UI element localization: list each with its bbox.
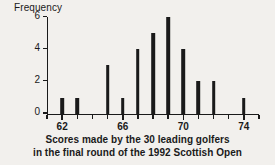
x-tick-68 [152,115,153,119]
caption-line-2: in the final round of the 1992 Scottish … [0,146,275,159]
bar-74 [242,98,246,114]
x-tick-62 [61,115,63,120]
bar-65 [106,65,110,113]
y-tick-2: 2 [43,80,47,81]
x-tick-label-62: 62 [57,121,68,132]
bar-68 [151,33,155,114]
bar-63 [75,98,79,114]
y-tick-4: 4 [43,48,47,49]
bar-70 [181,49,185,113]
bar-72 [212,81,216,113]
y-tick-6: 6 [43,16,47,17]
bar-69 [166,17,170,114]
bar-67 [136,49,140,113]
y-tick-label-0: 0 [34,106,40,117]
x-tick-70 [183,115,185,120]
histogram-figure: Frequency 0246 62667074 Scores made by t… [0,0,275,165]
x-tick-72 [213,115,214,119]
x-tick-75 [258,115,259,119]
y-tick-0: 0 [43,112,47,113]
x-tick-73 [228,115,229,119]
x-tick-69 [167,115,168,119]
y-tick-label-4: 4 [34,42,40,53]
x-tick-63 [77,115,78,119]
bar-66 [121,98,125,114]
x-tick-74 [243,115,245,120]
x-tick-61 [46,115,47,119]
y-tick-label-2: 2 [34,74,40,85]
x-tick-71 [198,115,199,119]
y-axis-line [47,17,48,115]
x-tick-label-70: 70 [178,121,189,132]
plot-area: 0246 62667074 [47,17,259,115]
x-tick-65 [107,115,108,119]
x-tick-66 [122,115,124,120]
bar-71 [197,81,201,113]
figure-caption: Scores made by the 30 leading golfers in… [0,133,275,159]
x-tick-67 [137,115,138,119]
x-tick-label-66: 66 [117,121,128,132]
bar-62 [60,98,64,114]
caption-line-1: Scores made by the 30 leading golfers [0,133,275,146]
x-tick-label-74: 74 [238,121,249,132]
y-tick-label-6: 6 [34,10,40,21]
x-tick-64 [92,115,93,119]
